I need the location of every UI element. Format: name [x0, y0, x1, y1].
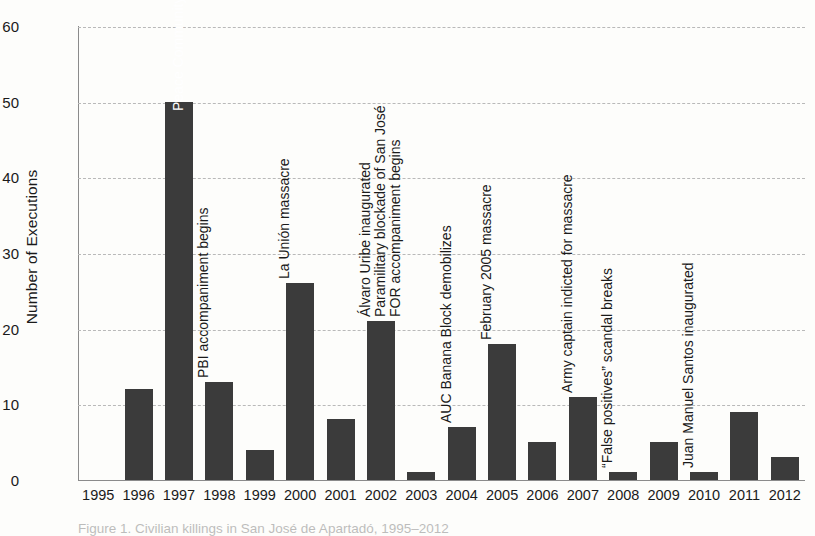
bar-annotation: La Unión massacre [277, 159, 291, 280]
bar-slot [401, 26, 441, 480]
y-axis-tick-label: 10 [0, 396, 19, 413]
x-axis-tick-label: 2002 [358, 487, 404, 503]
x-axis-tick-label: 2008 [600, 487, 646, 503]
bar[interactable] [650, 442, 678, 480]
bar[interactable] [165, 102, 193, 480]
x-axis-tick-label: 2012 [762, 487, 808, 503]
bar-annotation: PBI accompaniment begins [196, 207, 210, 377]
x-axis-tick-label: 2009 [641, 487, 687, 503]
bar-slot [522, 26, 562, 480]
x-axis-tick-label: 2011 [721, 487, 767, 503]
bar[interactable] [448, 427, 476, 480]
bar-annotation: Álvaro Uribe inaugurated [358, 162, 372, 317]
bar[interactable] [690, 472, 718, 480]
y-axis-tick-label: 0 [0, 472, 19, 489]
bar[interactable] [609, 472, 637, 480]
x-axis-tick-label: 1997 [156, 487, 202, 503]
plot-area: 0102030405060 Peace Community declaratio… [78, 26, 805, 481]
x-axis-tick-label: 2005 [479, 487, 525, 503]
bar-annotation: FOR accompaniment begins [388, 140, 402, 317]
x-axis-tick-label: 1999 [237, 487, 283, 503]
bar-slot [320, 26, 360, 480]
x-axis-tick-label: 1996 [116, 487, 162, 503]
bar-annotation: Army captain indicted for massacre [560, 174, 574, 393]
x-axis-tick-label: 2004 [439, 487, 485, 503]
bar-slot [724, 26, 764, 480]
bar[interactable] [246, 450, 274, 480]
bar-slot [765, 26, 805, 480]
x-axis-tick-label: 2010 [681, 487, 727, 503]
bar[interactable] [327, 419, 355, 480]
y-axis-tick-label: 50 [0, 94, 19, 111]
bar[interactable] [569, 397, 597, 480]
y-axis-tick-label: 30 [0, 245, 19, 262]
bar[interactable] [367, 321, 395, 480]
bar-slot [643, 26, 683, 480]
y-axis-tick-label: 20 [0, 321, 19, 338]
bar-annotation: February 2005 massacre [479, 184, 493, 340]
bar-annotation: Paramilitary blockade of San José [373, 105, 387, 317]
bar-annotation: “False positives” scandal breaks [600, 268, 614, 468]
bar-slot [118, 26, 158, 480]
y-axis-title: Number of Executions [23, 97, 41, 397]
bar[interactable] [407, 472, 435, 480]
bar-annotation: Peace Community declaration [171, 0, 185, 111]
figure-caption: Figure 1. Civilian killings in San José … [78, 521, 798, 536]
bar[interactable] [730, 412, 758, 480]
bar[interactable] [286, 283, 314, 480]
x-axis-tick-label: 2000 [277, 487, 323, 503]
y-axis-tick-label: 40 [0, 169, 19, 186]
x-axis-tick-label: 2003 [398, 487, 444, 503]
x-axis-tick-label: 2007 [560, 487, 606, 503]
bar[interactable] [125, 389, 153, 480]
bar-annotation: AUC Banana Block demobilizes [439, 225, 453, 423]
x-axis-tick-label: 2001 [318, 487, 364, 503]
bar-slot [78, 26, 118, 480]
bar[interactable] [488, 344, 516, 480]
x-axis-tick-labels: 1995199619971998199920002001200220032004… [78, 487, 805, 511]
bar-annotation: Juan Manuel Santos inaugurated [681, 263, 695, 468]
y-axis-tick-label: 60 [0, 18, 19, 35]
bar[interactable] [528, 442, 556, 480]
bar-slot [240, 26, 280, 480]
bar[interactable] [771, 457, 799, 480]
x-axis-tick-label: 1998 [196, 487, 242, 503]
x-axis-tick-label: 1995 [75, 487, 121, 503]
x-axis-tick-label: 2006 [519, 487, 565, 503]
bar[interactable] [205, 382, 233, 480]
